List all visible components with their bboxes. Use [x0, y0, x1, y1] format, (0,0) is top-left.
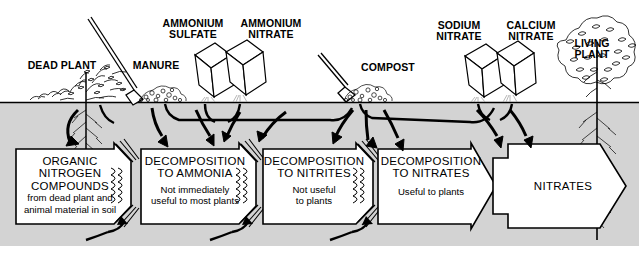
label-compost: COMPOST	[357, 62, 419, 73]
box4-line2: TO NITRATES	[376, 167, 486, 179]
box3-line1: DECOMPOSITION	[259, 155, 369, 167]
label-manure: MANURE	[128, 60, 184, 71]
label-ammonium-sulfate: AMMONIUM SULFATE	[155, 18, 231, 40]
box3-sub2: to plants	[259, 196, 369, 206]
label-living-plant: LIVING PLANT	[562, 38, 622, 60]
box2-sub1: Not immediately	[139, 185, 251, 195]
box1-line3: COMPOUNDS	[16, 180, 124, 192]
box5-text: NITRATES	[513, 180, 613, 192]
box1-text: ORGANIC NITROGEN COMPOUNDS from dead pla…	[16, 155, 124, 215]
label-calcium-nitrate: CALCIUM NITRATE	[498, 20, 564, 42]
box1-line1: ORGANIC	[16, 155, 124, 167]
sky-region	[0, 0, 639, 102]
box1-sub1: from dead plant and	[16, 193, 124, 203]
box2-sub2: useful to most plants	[139, 196, 251, 206]
box3-text: DECOMPOSITION TO NITRITES Not useful to …	[259, 155, 369, 207]
bottom-margin	[0, 246, 639, 255]
label-sodium-nitrate: SODIUM NITRATE	[426, 20, 492, 42]
box2-text: DECOMPOSITION TO AMMONIA Not immediately…	[139, 155, 251, 207]
box2-line1: DECOMPOSITION	[139, 155, 251, 167]
label-dead-plant: DEAD PLANT	[24, 60, 100, 71]
nitrogen-cycle-diagram: DEAD PLANT MANURE AMMONIUM SULFATE AMMON…	[0, 0, 639, 255]
box4-line1: DECOMPOSITION	[376, 155, 486, 167]
box4-sub1: Useful to plants	[376, 187, 486, 197]
box1-sub2: animal material in soil	[16, 205, 124, 215]
box2-line2: TO AMMONIA	[139, 167, 251, 179]
box1-line2: NITROGEN	[16, 167, 124, 179]
label-ammonium-nitrate: AMMONIUM NITRATE	[233, 18, 309, 40]
box3-line2: TO NITRITES	[259, 167, 369, 179]
box3-sub1: Not useful	[259, 185, 369, 195]
box4-text: DECOMPOSITION TO NITRATES Useful to plan…	[376, 155, 486, 197]
